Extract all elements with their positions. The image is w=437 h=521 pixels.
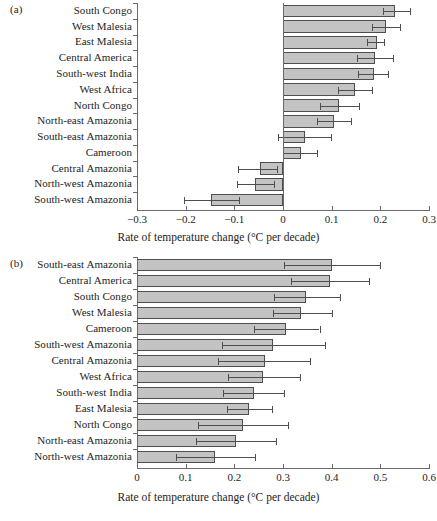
x-axis-tick-label: 0.1 (312, 214, 352, 225)
error-bar-line-8 (278, 137, 331, 138)
error-bar-cap-low-11 (196, 438, 197, 445)
x-axis-tick-3 (283, 206, 284, 210)
error-bar-cap-low-9 (227, 406, 228, 413)
error-bar-cap-low-8 (223, 390, 224, 397)
error-bar-cap-low-3 (357, 55, 358, 62)
error-bar-cap-high-4 (320, 326, 321, 333)
error-bar-cap-low-0 (284, 262, 285, 269)
error-bar-line-5 (338, 90, 372, 91)
error-bar-line-8 (223, 393, 284, 394)
x-axis-tick-1 (186, 464, 187, 468)
x-axis-tick-label: 0.2 (214, 472, 254, 483)
error-bar-cap-low-4 (254, 326, 255, 333)
error-bar-cap-high-3 (393, 55, 394, 62)
error-bar-cap-low-2 (274, 294, 275, 301)
x-axis-tick-4 (332, 206, 333, 210)
x-axis-tick-label: −0.1 (214, 214, 254, 225)
error-bar-line-1 (291, 281, 369, 282)
panel-b-plot-area: 00.10.20.30.40.50.6 (0, 253, 437, 498)
error-bar-line-6 (320, 106, 358, 107)
error-bar-cap-low-7 (317, 118, 318, 125)
error-bar-cap-low-1 (291, 278, 292, 285)
error-bar-line-6 (218, 361, 309, 362)
error-bar-cap-high-5 (325, 342, 326, 349)
error-bar-cap-high-6 (359, 103, 360, 110)
x-axis-tick-label: 0.4 (312, 472, 352, 483)
x-axis-tick-5 (380, 206, 381, 210)
error-bar-cap-low-0 (383, 8, 384, 15)
bar-south-congo (283, 5, 395, 18)
error-bar-line-11 (237, 184, 274, 185)
x-axis-tick-2 (234, 206, 235, 210)
error-bar-cap-low-6 (320, 103, 321, 110)
error-bar-cap-high-2 (384, 39, 385, 46)
panel-a-plot-area: −0.3−0.2−0.100.10.20.3 (0, 0, 437, 240)
panel-b-axis-title: Rate of temperature change (°C per decad… (0, 491, 437, 503)
error-bar-cap-high-1 (369, 278, 370, 285)
x-axis-tick-6 (429, 206, 430, 210)
error-bar-cap-high-2 (340, 294, 341, 301)
panel-b: (b) South-east AmazoniaCentral AmericaSo… (0, 253, 437, 521)
error-bar-cap-high-5 (372, 87, 373, 94)
error-bar-cap-low-3 (273, 310, 274, 317)
x-axis-tick-label: −0.3 (117, 214, 157, 225)
bar-west-malesia (283, 20, 386, 33)
error-bar-cap-high-6 (310, 358, 311, 365)
error-bar-cap-low-12 (184, 197, 185, 204)
x-axis-tick-5 (380, 464, 381, 468)
error-bar-line-0 (284, 265, 380, 266)
error-bar-line-3 (273, 313, 331, 314)
error-bar-cap-high-3 (332, 310, 333, 317)
error-bar-line-12 (184, 200, 239, 201)
error-bar-line-7 (317, 121, 351, 122)
error-bar-line-9 (227, 409, 272, 410)
error-bar-line-1 (372, 27, 400, 28)
error-bar-cap-high-11 (276, 438, 277, 445)
error-bar-cap-high-12 (255, 454, 256, 461)
error-bar-cap-high-11 (274, 181, 275, 188)
error-bar-cap-high-8 (331, 134, 332, 141)
error-bar-cap-high-7 (300, 374, 301, 381)
error-bar-cap-low-6 (218, 358, 219, 365)
panel-a: (a) South CongoWest MalesiaEast MalesiaC… (0, 0, 437, 250)
error-bar-cap-low-5 (222, 342, 223, 349)
error-bar-line-4 (358, 74, 387, 75)
x-axis-tick-0 (137, 464, 138, 468)
x-axis-tick-label: −0.2 (166, 214, 206, 225)
error-bar-cap-low-10 (198, 422, 199, 429)
error-bar-line-3 (357, 58, 393, 59)
error-bar-line-2 (274, 297, 341, 298)
x-axis-spine (137, 468, 430, 469)
error-bar-line-0 (383, 11, 410, 12)
error-bar-line-4 (254, 329, 320, 330)
x-axis-spine (137, 210, 430, 211)
error-bar-cap-low-4 (358, 71, 359, 78)
error-bar-cap-high-9 (317, 150, 318, 157)
x-axis-tick-4 (332, 464, 333, 468)
zero-baseline (137, 257, 138, 467)
x-axis-tick-label: 0.1 (166, 472, 206, 483)
x-axis-tick-0 (137, 206, 138, 210)
error-bar-cap-high-0 (380, 262, 381, 269)
error-bar-cap-high-9 (272, 406, 273, 413)
error-bar-line-2 (367, 42, 384, 43)
x-axis-tick-label: 0 (117, 472, 157, 483)
error-bar-cap-low-11 (237, 181, 238, 188)
x-axis-tick-label: 0.5 (360, 472, 400, 483)
error-bar-cap-high-0 (410, 8, 411, 15)
error-bar-cap-low-7 (228, 374, 229, 381)
error-bar-line-5 (222, 345, 326, 346)
x-axis-tick-label: 0.6 (409, 472, 437, 483)
error-bar-cap-high-12 (239, 197, 240, 204)
error-bar-cap-low-10 (238, 166, 239, 173)
x-axis-tick-label: 0.3 (409, 214, 437, 225)
bar-east-malesia (283, 36, 377, 49)
x-axis-tick-label: 0.2 (360, 214, 400, 225)
error-bar-line-11 (196, 441, 276, 442)
error-bar-line-10 (238, 169, 277, 170)
error-bar-cap-high-4 (388, 71, 389, 78)
error-bar-line-9 (283, 153, 317, 154)
x-axis-tick-3 (283, 464, 284, 468)
error-bar-cap-high-8 (284, 390, 285, 397)
panel-a-axis-title: Rate of temperature change (°C per decad… (0, 231, 437, 243)
